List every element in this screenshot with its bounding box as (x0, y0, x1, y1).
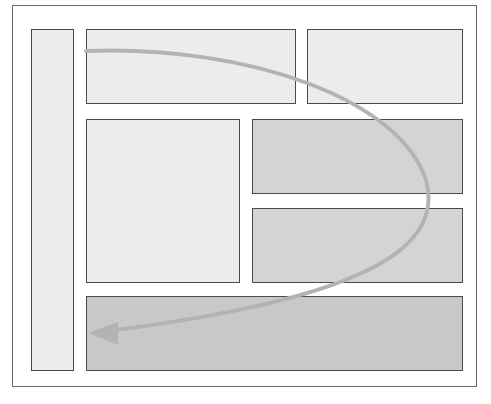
bottom-panel (86, 296, 463, 371)
top-left-panel (86, 29, 296, 104)
main-left-panel (86, 119, 240, 283)
middle-right-upper-panel (252, 119, 463, 194)
middle-right-lower-panel (252, 208, 463, 283)
top-right-panel (307, 29, 463, 104)
sidebar-panel (31, 29, 74, 371)
